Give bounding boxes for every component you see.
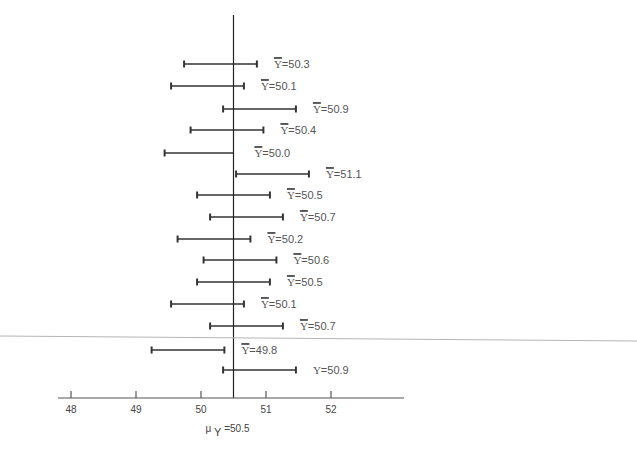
mu-subscript: Y xyxy=(214,426,222,438)
confidence-interval: Y=50.4 xyxy=(191,124,317,136)
interval-group: Y=50.3Y=50.1Y=50.9Y=50.4Y=50.0Y=51.1Y=50… xyxy=(152,58,362,376)
sample-mean-label: Y=50.3 xyxy=(274,58,310,70)
confidence-interval: Y=50.7 xyxy=(210,320,336,332)
confidence-interval: Y=49.8 xyxy=(152,344,278,356)
x-axis-ticks: 4849505152 xyxy=(65,391,337,415)
x-tick-label: 50 xyxy=(195,404,207,415)
confidence-interval: Y=50.9 xyxy=(223,103,349,115)
scan-artifact-line xyxy=(0,336,637,341)
confidence-interval: Y=50.0 xyxy=(165,147,291,159)
sample-mean-label: Y=50.5 xyxy=(287,276,323,288)
sample-mean-label: Y=50.2 xyxy=(267,233,303,245)
confidence-interval: Y=51.1 xyxy=(236,168,362,180)
sample-mean-label: Y=50.7 xyxy=(300,320,336,332)
confidence-interval: Y=50.5 xyxy=(197,189,323,201)
sample-mean-label: Y=50.5 xyxy=(287,189,323,201)
sample-mean-label: Y=50.9 xyxy=(313,103,349,115)
confidence-interval: Y=50.7 xyxy=(210,211,336,223)
sample-mean-label: Y=51.1 xyxy=(326,168,362,180)
sample-mean-label: Y=50.0 xyxy=(254,147,290,159)
sample-mean-label: Y=50.4 xyxy=(280,124,316,136)
confidence-interval: Y=50.9 xyxy=(223,364,349,376)
confidence-interval: Y=50.3 xyxy=(184,58,310,70)
mu-symbol: μ xyxy=(206,423,212,434)
sample-mean-label: Y=50.1 xyxy=(261,298,297,310)
sample-mean-label: Y=50.7 xyxy=(300,211,336,223)
x-tick-label: 48 xyxy=(65,404,77,415)
x-tick-label: 49 xyxy=(130,404,142,415)
x-tick-label: 52 xyxy=(325,404,337,415)
x-tick-label: 51 xyxy=(260,404,272,415)
sample-mean-label: Y=50.1 xyxy=(261,80,297,92)
confidence-interval: Y=50.6 xyxy=(204,254,330,266)
sample-mean-label: Y=49.8 xyxy=(241,344,277,356)
confidence-interval-chart: Y=50.3Y=50.1Y=50.9Y=50.4Y=50.0Y=51.1Y=50… xyxy=(0,0,637,457)
sample-mean-label: Y=50.9 xyxy=(313,364,349,376)
confidence-interval: Y=50.5 xyxy=(197,276,323,288)
sample-mean-label: Y=50.6 xyxy=(293,254,329,266)
confidence-interval: Y=50.2 xyxy=(178,233,304,245)
population-mean-label: μ Y =50.5 xyxy=(206,423,250,438)
mu-value: =50.5 xyxy=(224,423,250,434)
